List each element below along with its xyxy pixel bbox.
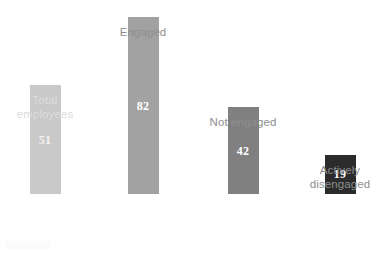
- bar-value-label: 42: [228, 145, 259, 157]
- category-label-engaged: Engaged: [100, 25, 186, 39]
- category-label-total-employees: Total employees: [2, 93, 88, 121]
- bar-value-label: 82: [128, 100, 159, 112]
- category-label-actively-disengaged: Actively disengaged: [297, 163, 383, 191]
- plot-area: 51 Total employees 82 Engaged 42 Not eng…: [0, 0, 387, 256]
- bar-group-not-engaged: 42 Not engaged: [200, 107, 286, 194]
- scan-artifact: [5, 241, 51, 250]
- bar-value-label: 51: [30, 134, 61, 146]
- category-label-not-engaged: Not engaged: [200, 115, 286, 129]
- bar-group-total-employees: 51 Total employees: [2, 85, 88, 194]
- bar-chart: 51 Total employees 82 Engaged 42 Not eng…: [0, 0, 387, 256]
- bar-engaged[interactable]: 82: [128, 17, 159, 194]
- bar-group-engaged: 82 Engaged: [100, 17, 186, 194]
- bar-group-actively-disengaged: 19 Actively disengaged: [297, 155, 383, 194]
